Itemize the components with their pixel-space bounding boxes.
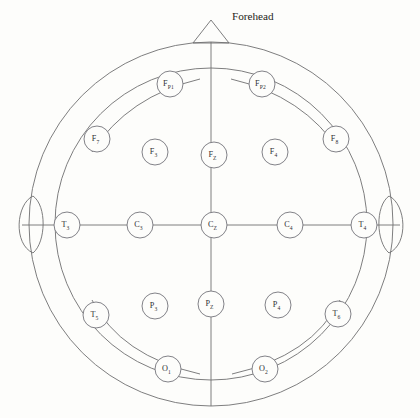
electrode-c3[interactable]: C3 [127,212,153,238]
eeg-electrode-diagram: FP1FP2F7F3FZF4F8T3C3CZC4T4T5P3PZP4T6O1O2… [0,0,420,418]
electrode-group: FP1FP2F7F3FZF4F8T3C3CZC4T4T5P3PZP4T6O1O2 [54,71,377,382]
electrode-c4[interactable]: C4 [277,212,303,238]
forehead-label: Forehead [232,10,274,22]
electrode-fz[interactable]: FZ [201,142,227,168]
electrode-pz[interactable]: PZ [198,291,224,317]
electrode-f3[interactable]: F3 [142,139,168,165]
electrode-t5[interactable]: T5 [83,302,109,328]
ear-left-icon [19,196,43,253]
electrode-o1[interactable]: O1 [155,356,181,382]
nose-marker-icon [193,20,229,43]
electrode-p3[interactable]: P3 [142,293,168,319]
electrode-cz[interactable]: CZ [201,212,227,238]
electrode-f8[interactable]: F8 [323,126,349,152]
electrode-f7[interactable]: F7 [84,126,110,152]
electrode-t3[interactable]: T3 [54,212,80,238]
diagram-canvas: FP1FP2F7F3FZF4F8T3C3CZC4T4T5P3PZP4T6O1O2… [0,0,420,418]
electrode-fp1[interactable]: FP1 [157,71,183,97]
electrode-p4[interactable]: P4 [265,292,291,318]
electrode-f4[interactable]: F4 [262,139,288,165]
electrode-t4[interactable]: T4 [351,212,377,238]
electrode-fp2[interactable]: FP2 [249,71,275,97]
electrode-o2[interactable]: O2 [252,356,278,382]
ear-right-icon [379,196,403,253]
electrode-t6[interactable]: T6 [325,301,351,327]
